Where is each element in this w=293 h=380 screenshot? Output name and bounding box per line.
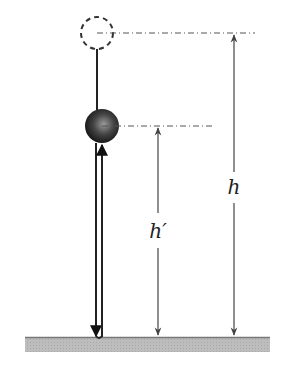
bounce-turn: [96, 336, 102, 338]
h-label: h: [228, 175, 241, 199]
h-dimension: h: [228, 35, 241, 335]
h-prime-dimension: h′: [149, 128, 167, 335]
ground: [25, 337, 270, 352]
bounce-diagram: h h′: [0, 0, 293, 380]
h-prime-label: h′: [149, 219, 167, 243]
